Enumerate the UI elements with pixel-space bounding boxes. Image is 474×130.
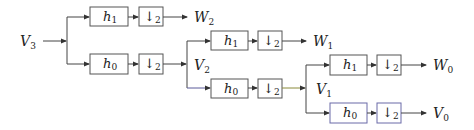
- input-signal-v3: V3: [20, 33, 36, 51]
- output-w0: W0: [433, 57, 453, 75]
- signal-v1: V1: [316, 81, 332, 99]
- signal-v2: V2: [194, 57, 210, 75]
- output-w2: W2: [194, 9, 214, 27]
- stage-3: V1 h1 ↓2 W0 h0 ↓2 V0: [306, 55, 453, 123]
- output-w1: W1: [313, 33, 333, 51]
- filter-bank-diagram: V3 h1 ↓2 W2 h0 ↓2 V2 h1 ↓2 W1 h0: [0, 0, 474, 130]
- output-v0: V0: [433, 105, 449, 123]
